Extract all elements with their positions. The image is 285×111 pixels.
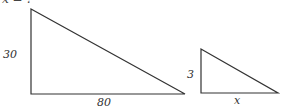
large-triangle: 30 80 [3,9,185,109]
small-triangle-height-label: 3 [187,68,194,81]
similar-triangles-diagram: 30 80 3 x [0,0,285,111]
large-triangle-height-label: 30 [3,48,17,61]
small-triangle-base-label: x [234,94,241,107]
small-triangle: 3 x [187,49,278,107]
large-triangle-base-label: 80 [97,96,111,109]
